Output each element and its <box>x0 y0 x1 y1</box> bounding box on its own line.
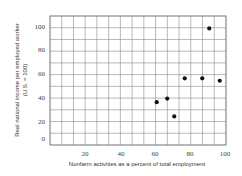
y-tick-20: 20 <box>38 118 46 126</box>
x-tick-40: 40 <box>118 150 126 158</box>
y-tick-labels: 100 80 60 40 20 0 <box>35 23 46 143</box>
plot-frame <box>50 16 226 145</box>
y-tick-60: 60 <box>38 70 46 78</box>
data-point <box>165 96 169 100</box>
data-point <box>200 76 204 80</box>
y-tick-40: 40 <box>38 94 46 102</box>
x-axis-label: Nonfarm activities as a percent of total… <box>69 161 206 167</box>
x-tick-100: 100 <box>220 150 231 158</box>
data-points <box>155 26 222 118</box>
grid <box>50 16 226 145</box>
data-point <box>155 100 159 104</box>
y-axis-label: Real national income per employed worker… <box>14 23 28 137</box>
y-tick-0: 0 <box>42 135 46 143</box>
y-tick-80: 80 <box>38 46 46 54</box>
data-point <box>172 114 176 118</box>
y-axis-label-main: Real national income per employed worker <box>14 23 20 137</box>
data-point <box>183 76 187 80</box>
x-tick-labels: 20 40 60 80 100 <box>82 150 231 158</box>
data-point <box>207 26 211 30</box>
data-point <box>218 79 222 83</box>
scatter-chart: 100 80 60 40 20 0 20 40 60 80 100 Nonfar… <box>0 0 242 176</box>
x-tick-60: 60 <box>152 150 160 158</box>
y-tick-100: 100 <box>35 23 46 31</box>
x-tick-80: 80 <box>187 150 195 158</box>
y-axis-label-sub: (U.S. = 100) <box>22 64 28 97</box>
x-tick-20: 20 <box>82 150 90 158</box>
